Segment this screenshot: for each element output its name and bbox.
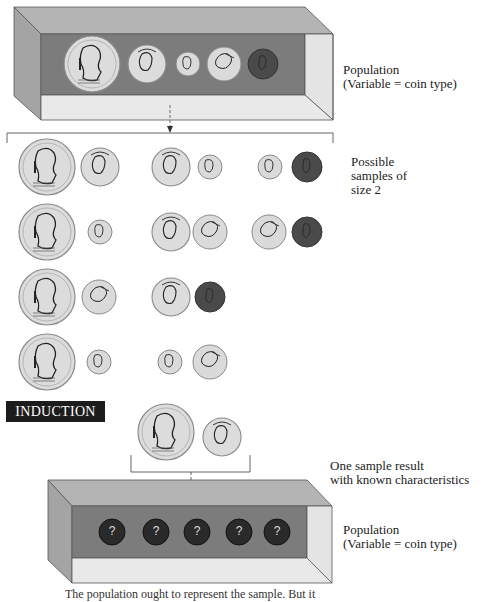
- induction-label: INDUCTION: [6, 401, 105, 422]
- bottom-population-variable: (Variable = coin type): [343, 537, 457, 551]
- half-dollar-coin: [64, 36, 120, 92]
- samples-label-line3: size 2: [351, 183, 407, 197]
- sample-result-line2: with known characteristics: [330, 473, 469, 487]
- bottom-population-label: Population (Variable = coin type): [343, 523, 457, 551]
- top-population-box: [14, 7, 333, 120]
- question-mark-icon: ?: [271, 524, 283, 538]
- question-mark-icon: ?: [150, 524, 162, 538]
- samples-label-line2: samples of: [351, 169, 407, 183]
- sample-result-label: One sample result with known characteris…: [330, 459, 469, 487]
- question-mark-icon: ?: [233, 524, 245, 538]
- sample-result-line1: One sample result: [330, 459, 469, 473]
- dime-coin: [176, 52, 200, 76]
- top-population-label: Population (Variable = coin type): [343, 63, 457, 91]
- sample-pairs: [19, 139, 322, 390]
- question-mark-icon: ?: [191, 524, 203, 538]
- top-population-title: Population: [343, 63, 457, 77]
- sample-result-coins: [138, 404, 241, 460]
- caption-text: The population ought to represent the sa…: [65, 587, 315, 601]
- question-mark-icon: ?: [106, 524, 118, 538]
- bottom-population-title: Population: [343, 523, 457, 537]
- nickel-coin: [207, 47, 241, 81]
- quarter-coin: [128, 45, 166, 83]
- samples-label-line1: Possible: [351, 155, 407, 169]
- penny-coin: [248, 49, 278, 79]
- top-population-variable: (Variable = coin type): [343, 77, 457, 91]
- samples-label: Possible samples of size 2: [351, 155, 407, 197]
